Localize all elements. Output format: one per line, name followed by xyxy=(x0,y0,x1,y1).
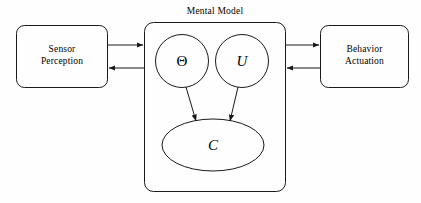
mental-model-diagram: Mental Model Sensor Perception Behavior … xyxy=(0,0,421,203)
edge-u-to-c xyxy=(230,87,238,121)
sensor-perception-box xyxy=(17,26,108,88)
theta-node-circle xyxy=(156,35,209,88)
c-node-ellipse xyxy=(162,119,264,171)
diagram-canvas xyxy=(0,0,421,203)
behavior-actuation-box xyxy=(321,26,409,88)
mental-model-container xyxy=(145,23,286,192)
edge-theta-to-c xyxy=(186,87,196,121)
u-node-circle xyxy=(216,35,269,88)
